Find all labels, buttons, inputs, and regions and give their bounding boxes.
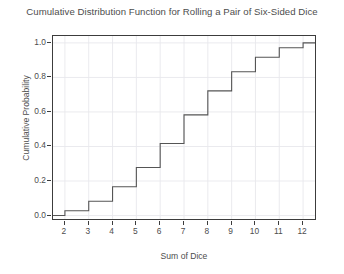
y-tick-label: 0.4 — [2, 140, 46, 150]
x-tick-mark — [159, 221, 160, 225]
y-tick-label: 0.6 — [2, 106, 46, 116]
y-tick-mark — [47, 76, 51, 77]
chart-title: Cumulative Distribution Function for Rol… — [0, 6, 344, 17]
y-tick-mark — [47, 42, 51, 43]
x-tick-mark — [254, 221, 255, 225]
plot-area — [52, 35, 316, 220]
y-tick-mark — [47, 215, 51, 216]
y-tick-mark — [47, 180, 51, 181]
x-tick-mark — [207, 221, 208, 225]
y-axis-tick-labels: 0.00.20.40.60.81.0 — [0, 35, 46, 220]
y-tick-label: 0.0 — [2, 210, 46, 220]
x-axis-label: Sum of Dice — [52, 251, 316, 261]
x-tick-mark — [302, 221, 303, 225]
x-tick-mark — [88, 221, 89, 225]
x-tick-mark — [135, 221, 136, 225]
x-tick-label: 12 — [287, 226, 317, 236]
x-tick-mark — [64, 221, 65, 225]
x-tick-mark — [231, 221, 232, 225]
x-axis-tick-labels: 23456789101112 — [52, 226, 316, 240]
y-tick-label: 0.2 — [2, 175, 46, 185]
chart-figure: Cumulative Distribution Function for Rol… — [0, 0, 344, 274]
y-tick-label: 0.8 — [2, 71, 46, 81]
y-tick-mark — [47, 145, 51, 146]
y-tick-mark — [47, 111, 51, 112]
y-tick-label: 1.0 — [2, 37, 46, 47]
x-tick-mark — [112, 221, 113, 225]
cdf-step-plot — [53, 36, 315, 219]
x-tick-mark — [183, 221, 184, 225]
x-tick-mark — [278, 221, 279, 225]
